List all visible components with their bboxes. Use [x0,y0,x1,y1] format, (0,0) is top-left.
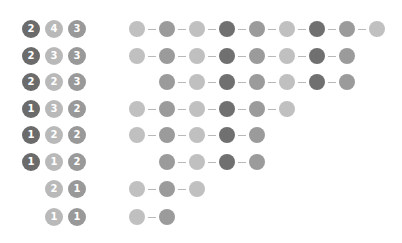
connector-line [238,135,246,136]
connector-line [328,82,336,83]
connector-line [268,56,276,57]
connector-line [148,135,156,136]
count-badge: 4 [45,20,63,38]
connector-line [208,135,216,136]
connector-line [148,56,156,57]
node-dot-dark [309,48,325,64]
count-badge: 2 [68,100,86,118]
node-dot-dark [309,21,325,37]
connector-line [328,29,336,30]
diagram-row: 122 [0,126,402,144]
connector-line [238,162,246,163]
node-dot-light [279,101,295,117]
count-badge: 2 [68,153,86,171]
connector-line [268,109,276,110]
connector-line [178,189,186,190]
count-badge: 1 [22,100,40,118]
connector-line [208,109,216,110]
node-dot-light [189,101,205,117]
connector-line [208,82,216,83]
count-badge: 1 [22,126,40,144]
count-badge: 1 [22,153,40,171]
count-badge: 3 [68,73,86,91]
connector-line [178,56,186,57]
connector-line [208,162,216,163]
node-dot-medium [159,21,175,37]
node-dot-light [129,21,145,37]
node-dot-medium [249,48,265,64]
diagram-row: 243 [0,20,402,38]
connector-line [328,56,336,57]
node-dot-medium [249,74,265,90]
node-dot-medium [159,127,175,143]
node-dot-light [189,127,205,143]
node-dot-dark [219,154,235,170]
node-dot-medium [249,21,265,37]
connector-line [178,162,186,163]
connector-line [238,109,246,110]
count-badge: 2 [45,180,63,198]
count-badge: 2 [22,73,40,91]
node-dot-light [129,181,145,197]
diagram-row: 112 [0,153,402,171]
node-dot-light [129,209,145,225]
connector-line [178,82,186,83]
connector-line [298,82,306,83]
count-badge: 1 [68,180,86,198]
connector-line [208,29,216,30]
connector-line [298,29,306,30]
node-dot-light [189,74,205,90]
count-badge: 3 [45,100,63,118]
count-badge: 2 [45,126,63,144]
connector-line [238,82,246,83]
node-dot-dark [219,127,235,143]
node-dot-medium [249,101,265,117]
node-dot-dark [219,74,235,90]
count-badge: 3 [45,47,63,65]
connector-line [148,29,156,30]
connector-line [358,29,366,30]
connector-line [178,29,186,30]
count-badge: 2 [45,73,63,91]
node-dot-light [129,48,145,64]
node-dot-light [279,48,295,64]
node-dot-light [189,48,205,64]
connector-line [238,29,246,30]
node-dot-medium [339,21,355,37]
count-badge: 1 [68,208,86,226]
node-dot-light [369,21,385,37]
connector-line [148,189,156,190]
node-dot-dark [219,21,235,37]
node-dot-light [279,74,295,90]
diagram-row: 11 [0,208,402,226]
node-dot-light [189,181,205,197]
count-badge: 2 [22,20,40,38]
diagram-row: 21 [0,180,402,198]
count-badge: 2 [22,47,40,65]
count-badge: 3 [68,47,86,65]
node-dot-medium [159,101,175,117]
node-dot-medium [159,209,175,225]
node-dot-light [279,21,295,37]
count-badge: 3 [68,20,86,38]
connector-line [148,217,156,218]
node-dot-light [129,127,145,143]
diagram-row: 233 [0,47,402,65]
node-dot-light [189,154,205,170]
connector-line [238,56,246,57]
connector-line [178,135,186,136]
connector-line [298,56,306,57]
node-dot-medium [159,181,175,197]
count-badge: 1 [45,153,63,171]
node-dot-light [189,21,205,37]
connector-line [268,29,276,30]
node-dot-medium [159,48,175,64]
node-dot-dark [219,48,235,64]
node-dot-medium [339,74,355,90]
count-badge: 1 [45,208,63,226]
node-dot-medium [249,154,265,170]
node-dot-medium [249,127,265,143]
node-dot-medium [159,74,175,90]
connector-line [178,109,186,110]
connector-line [148,109,156,110]
